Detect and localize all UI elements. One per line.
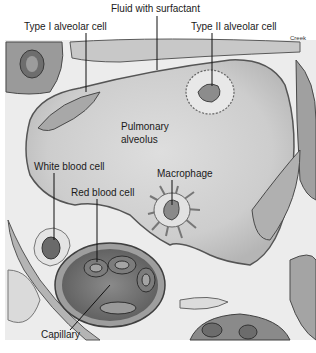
label-capillary: Capillary	[41, 329, 80, 340]
type-ii-alveolar-cell	[186, 70, 234, 114]
illustrator-credit: Creek	[290, 35, 306, 41]
label-white-blood-cell: White blood cell	[34, 161, 105, 172]
label-pulmonary: Pulmonary	[121, 121, 169, 132]
label-type-i-alveolar-cell: Type I alveolar cell	[24, 21, 107, 32]
label-fluid-with-surfactant: Fluid with surfactant	[111, 3, 200, 14]
label-red-blood-cell: Red blood cell	[71, 187, 134, 198]
alveolus-diagram: Fluid with surfactant Type I alveolar ce…	[0, 0, 316, 353]
capillary-top-left	[6, 42, 63, 94]
label-macrophage: Macrophage	[157, 168, 213, 179]
label-type-ii-alveolar-cell: Type II alveolar cell	[191, 21, 277, 32]
label-alveolus: alveolus	[121, 134, 158, 145]
